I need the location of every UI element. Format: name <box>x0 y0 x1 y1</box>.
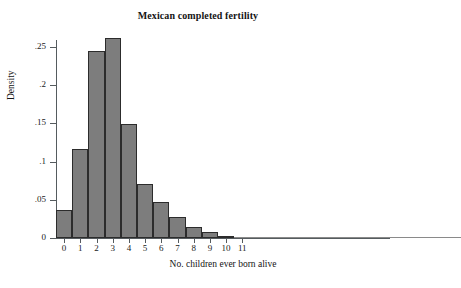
y-axis-tick <box>50 200 56 201</box>
histogram-bar <box>331 237 347 238</box>
histogram-bar <box>137 184 153 238</box>
y-axis-title: Density <box>6 70 16 100</box>
y-axis-tick <box>50 238 56 239</box>
y-axis-tick-label: .25 <box>16 41 46 51</box>
histogram-bar <box>283 237 299 238</box>
histogram-bar <box>396 237 412 238</box>
histogram-bar <box>267 237 283 238</box>
histogram-bar <box>169 217 185 238</box>
histogram-bar <box>121 124 137 238</box>
histogram-bar <box>364 237 380 238</box>
y-axis-tick-label: 0 <box>16 232 46 242</box>
histogram-bar <box>299 237 315 238</box>
y-axis-tick-label: .2 <box>16 79 46 89</box>
histogram-bar <box>88 51 104 238</box>
histogram-bar <box>153 202 169 238</box>
histogram-bar <box>186 227 202 238</box>
histogram-bar <box>412 237 428 238</box>
y-axis-tick <box>50 123 56 124</box>
histogram-bar <box>250 237 266 238</box>
x-axis-tick-label: 11 <box>232 243 252 253</box>
histogram-bar <box>380 237 396 238</box>
histogram-bar <box>56 210 72 238</box>
histogram-bar <box>72 149 88 238</box>
histogram-bar <box>105 38 121 238</box>
y-axis-tick-label: .15 <box>16 117 46 127</box>
histogram-bar <box>315 237 331 238</box>
histogram-bar <box>348 237 364 238</box>
y-axis-tick-label: .05 <box>16 194 46 204</box>
histogram-bar <box>445 237 461 238</box>
y-axis-tick-label: .1 <box>16 156 46 166</box>
y-axis-tick <box>50 85 56 86</box>
histogram-bar <box>429 237 445 238</box>
y-axis-tick <box>50 47 56 48</box>
bars-layer <box>0 0 396 239</box>
y-axis-tick <box>50 162 56 163</box>
x-axis-title: No. children ever born alive <box>56 259 390 269</box>
